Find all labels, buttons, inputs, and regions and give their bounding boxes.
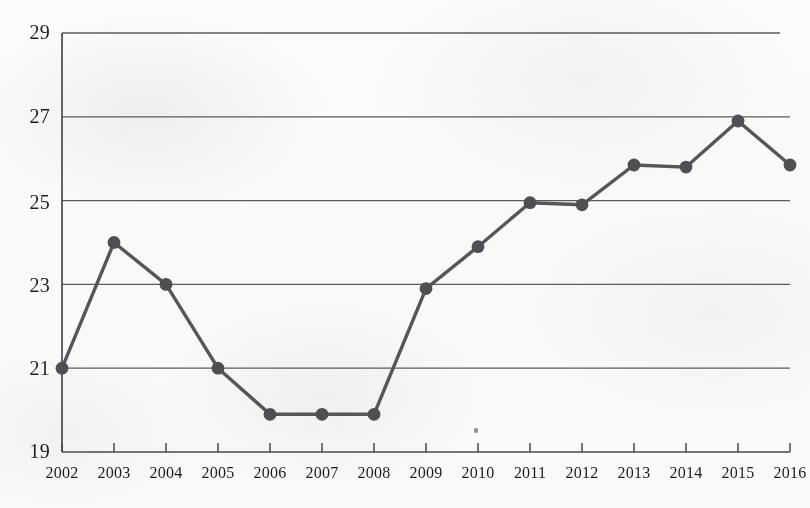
y-tick-label-27: 27 (8, 105, 50, 128)
x-tick-label-2008: 2008 (346, 464, 402, 482)
data-point-2005 (212, 362, 225, 375)
x-tick-label-2003: 2003 (86, 464, 142, 482)
y-tick-label-25: 25 (8, 191, 50, 214)
y-tick-label-19: 19 (8, 440, 50, 463)
x-tick-label-2010: 2010 (450, 464, 506, 482)
data-point-2010 (472, 240, 485, 253)
x-tick-label-2016: 2016 (762, 464, 810, 482)
x-tick-label-2015: 2015 (710, 464, 766, 482)
axis-frame (62, 33, 790, 452)
x-tick-label-2005: 2005 (190, 464, 246, 482)
data-point-2015 (732, 115, 745, 128)
x-tick-label-2009: 2009 (398, 464, 454, 482)
x-tick-label-2012: 2012 (554, 464, 610, 482)
data-point-2008 (368, 408, 381, 421)
x-tick-label-2014: 2014 (658, 464, 714, 482)
y-tick-label-29: 29 (8, 21, 50, 44)
x-tick-label-2013: 2013 (606, 464, 662, 482)
data-point-2006 (264, 408, 277, 421)
data-point-2011 (524, 196, 537, 209)
x-tick-label-2011: 2011 (502, 464, 558, 482)
data-point-2002 (56, 362, 69, 375)
plot-area (0, 0, 810, 508)
data-point-2014 (680, 161, 693, 174)
gridlines-group (62, 33, 790, 368)
data-point-2016 (784, 159, 797, 172)
data-point-2009 (420, 282, 433, 295)
x-tick-label-2007: 2007 (294, 464, 350, 482)
data-point-2007 (316, 408, 329, 421)
data-point-2012 (576, 198, 589, 211)
y-tick-label-21: 21 (8, 357, 50, 380)
data-point-markers (56, 115, 797, 421)
data-point-2004 (160, 278, 173, 291)
data-point-2013 (628, 159, 641, 172)
line-chart: 29 27 25 23 21 19 2002200320042005200620… (0, 0, 810, 508)
y-tick-label-23: 23 (8, 274, 50, 297)
x-tick-marks (62, 443, 790, 452)
x-tick-label-2004: 2004 (138, 464, 194, 482)
x-tick-label-2002: 2002 (34, 464, 90, 482)
x-tick-label-2006: 2006 (242, 464, 298, 482)
data-point-2003 (108, 236, 121, 249)
scan-speck (474, 428, 478, 433)
